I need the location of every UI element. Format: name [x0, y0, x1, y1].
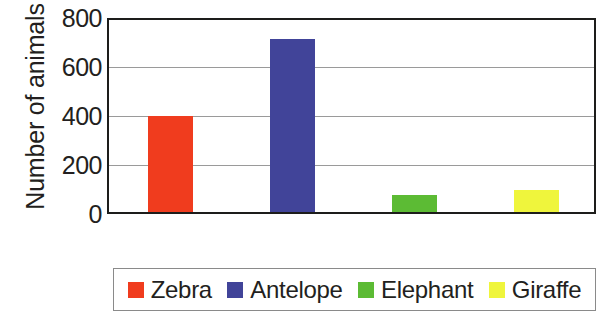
legend-label: Antelope	[250, 278, 342, 302]
legend-label: Elephant	[381, 278, 473, 302]
legend-entry-elephant[interactable]: Elephant	[358, 278, 473, 302]
y-tick-label-0: 0	[28, 202, 102, 227]
y-tick-label-400: 400	[28, 104, 102, 129]
bar-chart-figure: Number of animals 0200400600800 ZebraAnt…	[0, 0, 604, 327]
legend-label: Zebra	[151, 278, 212, 302]
bar-giraffe	[514, 190, 559, 212]
bars-group	[109, 20, 594, 212]
y-axis-tick-labels: 0200400600800	[28, 0, 102, 327]
bar-elephant	[392, 195, 437, 212]
plot-area	[107, 18, 596, 214]
chart-legend: ZebraAntelopeElephantGiraffe	[113, 268, 596, 311]
legend-entry-zebra[interactable]: Zebra	[128, 278, 212, 302]
bar-zebra	[148, 116, 193, 212]
legend-entry-antelope[interactable]: Antelope	[227, 278, 342, 302]
legend-label: Giraffe	[512, 278, 582, 302]
legend-swatch-elephant-icon	[358, 282, 374, 298]
bar-antelope	[270, 39, 315, 212]
legend-entry-giraffe[interactable]: Giraffe	[489, 278, 582, 302]
y-tick-label-200: 200	[28, 153, 102, 178]
y-tick-label-600: 600	[28, 55, 102, 80]
legend-swatch-antelope-icon	[227, 282, 243, 298]
legend-swatch-giraffe-icon	[489, 282, 505, 298]
legend-swatch-zebra-icon	[128, 282, 144, 298]
y-tick-label-800: 800	[28, 6, 102, 31]
